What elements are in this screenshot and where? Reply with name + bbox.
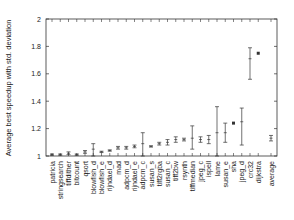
x-tick-label: tiffmedian (189, 161, 196, 191)
data-point-stringsearch (58, 154, 62, 155)
data-point-tiffmedian (190, 126, 194, 149)
data-points (50, 19, 273, 156)
data-point-tiff2bw (174, 137, 178, 142)
x-tick-label: rijndael_d (106, 161, 114, 191)
x-tick-label: sha (230, 161, 237, 172)
x-tick-label: tiff2bw (172, 160, 179, 181)
x-tick-label: qsort (82, 161, 90, 177)
data-point-rsynth (182, 138, 186, 141)
data-point-susan_s (149, 146, 153, 147)
x-tick-label: ispell (205, 161, 213, 177)
data-point-crc32 (248, 48, 252, 80)
x-tick-label: tiffdither (65, 160, 72, 185)
data-point-jpeg_c (199, 137, 203, 142)
plot-axes (46, 19, 277, 156)
y-tick-label: 1 (37, 153, 41, 160)
data-point-tiff2rgba (157, 142, 161, 145)
data-point-rijndael_d (108, 150, 112, 151)
x-tick-label: crc32 (247, 161, 254, 178)
data-point-bitcount (75, 154, 79, 155)
data-point-dijkstra (257, 52, 260, 55)
x-tick-label: rijndael_e (131, 161, 139, 191)
data-point-ispell (207, 135, 211, 143)
data-point-jpeg_d (240, 108, 244, 145)
x-tick-label: blowfish_e (98, 161, 106, 194)
x-tick-label: mad (115, 161, 122, 175)
y-tick-label: 1.4 (31, 98, 41, 105)
y-tick-label: 1.8 (31, 43, 41, 50)
data-point-adpcm_d (124, 146, 128, 149)
x-tick-label: rsynth (181, 161, 189, 180)
data-point-patricia (50, 154, 54, 155)
speedup-chart: 11.21.41.61.82 patriciastringsearchtiffd… (0, 0, 294, 220)
x-tick-label: blowfish_d (90, 161, 98, 194)
y-tick-label: 1.6 (31, 70, 41, 77)
data-point-mad (116, 146, 120, 149)
y-tick-label: 1.2 (31, 125, 41, 132)
x-tick-label: patricia (49, 161, 57, 184)
x-tick-label: average (268, 161, 276, 186)
data-point-average (269, 135, 273, 140)
data-point-blowfish_e (100, 151, 104, 152)
plot-frame (46, 19, 277, 156)
x-tick-label: adpcm_c (139, 161, 147, 190)
data-point-tiffdither (67, 152, 71, 155)
x-tick-label: susan_c (164, 161, 172, 188)
y-axis-ticks: 11.21.41.61.82 (31, 16, 277, 160)
x-tick-label: jpeg_d (238, 161, 246, 183)
data-point-susan_e (223, 123, 227, 142)
x-tick-label: susan_e (222, 161, 230, 188)
x-tick-label: stringsearch (57, 161, 65, 199)
data-point-sha (232, 122, 235, 125)
x-tick-label: jpeg_c (197, 161, 205, 183)
data-point-rijndael_e (133, 145, 137, 148)
data-point-lame (215, 107, 219, 156)
x-tick-label: bitcount (73, 161, 80, 186)
x-axis-labels: patriciastringsearchtiffditherbitcountqs… (49, 160, 276, 199)
data-point-adpcm_c (141, 133, 145, 156)
x-tick-label: dijkstra (255, 161, 263, 183)
y-axis-label: Average best speedup with std. deviation (4, 20, 13, 157)
data-point-susan_c (166, 140, 170, 145)
x-tick-label: susan_s (148, 161, 156, 188)
chart-canvas: 11.21.41.61.82 patriciastringsearchtiffd… (0, 0, 294, 220)
data-point-qsort (83, 151, 87, 154)
data-point-blowfish_d (91, 144, 95, 156)
x-tick-label: adpcm_d (123, 161, 131, 190)
x-tick-label: tiff2rgba (156, 161, 164, 186)
y-tick-label: 2 (37, 16, 41, 23)
x-tick-label: lame (214, 161, 221, 176)
